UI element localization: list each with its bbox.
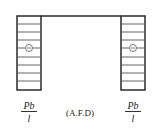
minus-sign-icon — [26, 45, 33, 52]
left-force-label: Pb l — [17, 95, 41, 124]
right-label-numerator: Pb — [125, 100, 140, 112]
right-label-denominator: l — [121, 113, 145, 124]
left-label-denominator: l — [17, 113, 41, 124]
minus-sign-icon — [130, 45, 137, 52]
left-label-numerator: Pb — [21, 100, 36, 112]
left-column-diagram — [17, 16, 41, 90]
right-column-diagram — [121, 16, 145, 90]
right-force-label: Pb l — [121, 95, 145, 124]
diagram-caption: (A.F.D) — [60, 108, 100, 118]
